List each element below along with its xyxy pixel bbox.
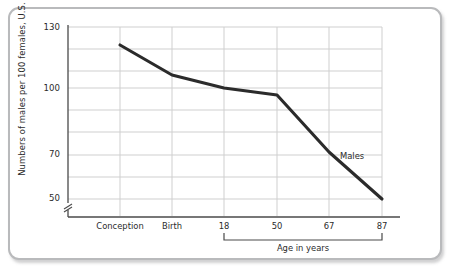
x-axis-title: Age in years: [203, 243, 403, 253]
x-axis-bracket: [224, 233, 382, 240]
line-chart: Numbers of males per 100 females, U.S. 1…: [0, 0, 456, 275]
gridlines-vertical: [120, 27, 382, 216]
data-line-males: [120, 45, 382, 199]
series-label-males: Males: [340, 151, 364, 161]
chart-canvas: [0, 0, 456, 275]
gridlines-horizontal: [68, 27, 382, 199]
x-tick-label-87: 87: [342, 221, 422, 231]
